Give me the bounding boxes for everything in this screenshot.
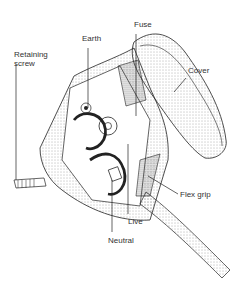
label-fuse: Fuse <box>134 20 152 29</box>
label-retaining-screw-2: screw <box>14 59 35 68</box>
label-retaining-screw-1: Retaining <box>14 50 48 59</box>
label-earth: Earth <box>82 34 101 43</box>
label-live: Live <box>128 217 143 226</box>
earth-terminal <box>81 103 91 113</box>
plug-diagram: Fuse Earth Retaining screw Cover Flex gr… <box>0 0 242 282</box>
cable <box>140 192 230 278</box>
retaining-screw <box>14 178 46 188</box>
label-neutral: Neutral <box>108 236 134 245</box>
label-flex-grip: Flex grip <box>180 190 211 199</box>
label-cover: Cover <box>188 66 209 75</box>
